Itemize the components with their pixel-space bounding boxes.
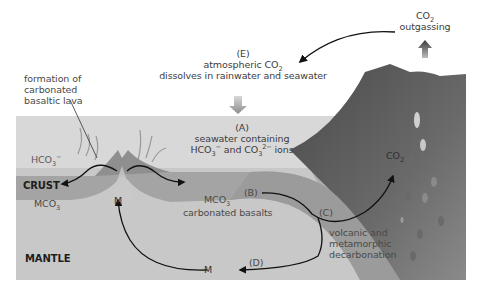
rain-arrow [229, 96, 247, 114]
mantle-m-label: M [204, 264, 212, 275]
process-d-label: (D) [249, 257, 263, 268]
outgas-arrow [418, 40, 432, 58]
mco3-left-label: MCO3 [34, 198, 60, 209]
process-a-label: (A) seawater containing HCO3− and CO32− … [162, 122, 322, 155]
ridge-m-label: M [114, 195, 122, 206]
mantle-label: MANTLE [25, 253, 70, 264]
process-c-label: (C) [319, 207, 333, 218]
process-e-label: (E) atmospheric CO2 dissolves in rainwat… [158, 48, 328, 81]
process-b-label: (B) [244, 187, 258, 198]
decarbonation-label: volcanic and metamorphic decarbonation [329, 227, 396, 260]
mco3-right-label: MCO3 [204, 194, 230, 205]
hco3-left-label: HCO3− [31, 154, 61, 165]
lava-formation-label: formation of carbonated basaltic lava [24, 73, 82, 106]
carbonated-basalts-label: carbonated basalts [183, 207, 272, 218]
outgassing-label: CO2 outgassing [390, 10, 460, 32]
crust-label: CRUST [23, 180, 60, 191]
co2-volcano-label: CO2 [386, 150, 404, 161]
